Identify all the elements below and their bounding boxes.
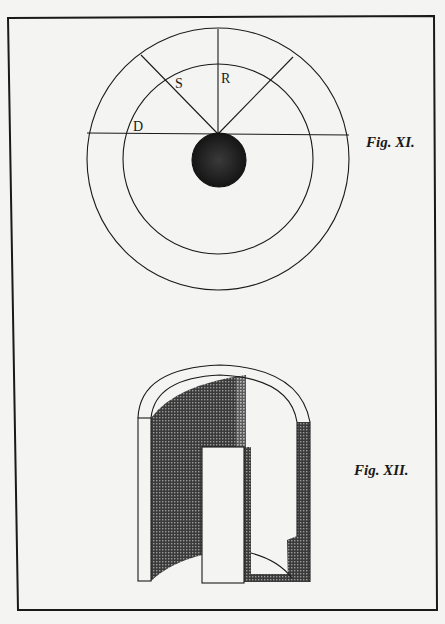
figure-11 [87, 28, 349, 290]
right-wall-shading [297, 422, 310, 582]
radial-line-left [141, 55, 218, 134]
label-d: D [133, 119, 143, 135]
central-sphere [192, 133, 246, 187]
left-wall-edge [138, 418, 151, 581]
caption-fig-12: Fig. XII. [354, 462, 409, 479]
doorway [202, 447, 244, 583]
plate-drawing [0, 0, 445, 624]
door-jamb-shading [244, 447, 251, 582]
caption-fig-11: Fig. XI. [366, 134, 415, 151]
radial-line-right [218, 57, 293, 134]
figure-12 [138, 365, 310, 583]
label-r: R [221, 71, 230, 87]
label-s: S [175, 76, 183, 92]
